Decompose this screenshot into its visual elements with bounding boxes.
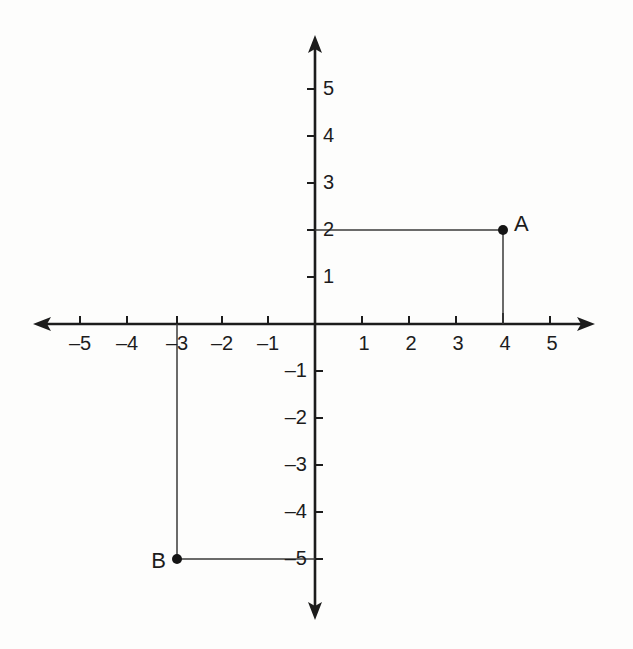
y-tick-label--3: –3 [285, 453, 307, 475]
y-tick-label--1: –1 [285, 359, 307, 381]
x-tick-label-5: 5 [546, 332, 557, 354]
y-tick-label--4: –4 [285, 500, 307, 522]
x-tick-label--1: –1 [257, 332, 279, 354]
x-tick-label--4: –4 [116, 332, 138, 354]
y-tick-label-2: 2 [323, 218, 334, 240]
point-a-dot[interactable] [498, 225, 508, 235]
coordinate-plane-figure: –5 –4 –3 –2 –1 1 2 3 4 5 1 2 3 4 5 –1 –2… [0, 0, 633, 649]
x-tick-label-1: 1 [358, 332, 369, 354]
x-tick-label-4: 4 [499, 332, 510, 354]
x-tick-label--3: –3 [166, 332, 188, 354]
x-tick-label-2: 2 [405, 332, 416, 354]
y-tick-label-4: 4 [323, 124, 334, 146]
y-tick-label--2: –2 [285, 406, 307, 428]
x-tick-label-3: 3 [452, 332, 463, 354]
y-tick-label-1: 1 [323, 265, 334, 287]
point-a-label: A [514, 211, 529, 236]
y-tick-label--5: –5 [285, 547, 307, 569]
x-tick-label--2: –2 [211, 332, 233, 354]
y-tick-label-3: 3 [323, 171, 334, 193]
point-b-dot[interactable] [172, 554, 182, 564]
plot-svg: –5 –4 –3 –2 –1 1 2 3 4 5 1 2 3 4 5 –1 –2… [0, 0, 633, 649]
x-tick-label--5: –5 [69, 332, 91, 354]
y-tick-label-5: 5 [323, 77, 334, 99]
point-b-label: B [151, 548, 166, 573]
